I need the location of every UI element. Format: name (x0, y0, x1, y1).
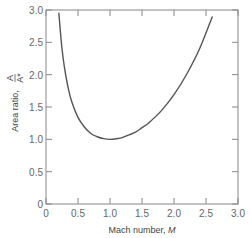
y-tick-label: 0.5 (29, 167, 43, 178)
svg-text:Area ratio,: Area ratio, (10, 90, 20, 132)
y-tick-label: 1.5 (29, 102, 43, 113)
area-ratio-curve (59, 13, 213, 140)
x-tick-label: 0.5 (71, 208, 85, 219)
x-tick-label: 2.0 (167, 208, 181, 219)
y-axis-label: Area ratio, A A* (5, 73, 25, 132)
y-label-numerator: A (5, 75, 15, 81)
x-tick-label: 2.5 (199, 208, 213, 219)
chart: 00.51.01.52.02.53.0 00.51.01.52.02.53.0 … (0, 0, 251, 238)
y-tick-labels: 00.51.01.52.02.53.0 (29, 5, 43, 210)
y-tick-label: 3.0 (29, 5, 43, 16)
plot-frame (46, 10, 238, 204)
y-tick-label: 2.0 (29, 70, 43, 81)
x-tick-label: 1.0 (103, 208, 117, 219)
axis-ticks (46, 10, 238, 204)
x-tick-label: 0 (43, 208, 49, 219)
y-label-denominator: A* (15, 73, 25, 83)
y-tick-label: 0 (37, 199, 43, 210)
x-tick-label: 3.0 (231, 208, 245, 219)
x-axis-label: Mach number, M (108, 225, 176, 235)
y-tick-label: 2.5 (29, 37, 43, 48)
x-tick-labels: 00.51.01.52.02.53.0 (43, 208, 245, 219)
y-tick-label: 1.0 (29, 134, 43, 145)
x-tick-label: 1.5 (135, 208, 149, 219)
